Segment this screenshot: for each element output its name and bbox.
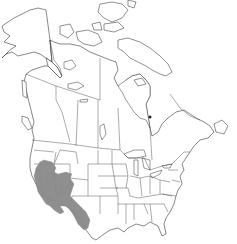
vancouver-island	[22, 116, 32, 130]
range-map: North America	[0, 0, 237, 244]
victoria-island	[76, 30, 102, 46]
somerset-island	[92, 22, 102, 30]
lake-michigan	[134, 160, 138, 176]
baffin-island	[118, 38, 172, 76]
haida-gwaii	[22, 80, 27, 98]
newfoundland	[214, 120, 228, 134]
greenland-edge	[128, 0, 136, 8]
belcher-islands-marker	[149, 116, 152, 119]
north-america-map	[0, 0, 237, 244]
alaska-outline	[2, 8, 52, 62]
banks-island	[60, 24, 74, 38]
ellesmere-island	[98, 2, 128, 22]
devon-island	[104, 22, 124, 32]
